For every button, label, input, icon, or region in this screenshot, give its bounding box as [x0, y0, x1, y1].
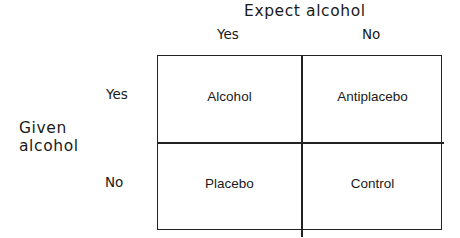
column-label-yes: Yes	[217, 26, 239, 42]
cell-alcohol: Alcohol	[158, 89, 301, 104]
column-label-no: No	[362, 26, 380, 42]
two-by-two-grid: Alcohol Antiplacebo Placebo Control	[157, 55, 442, 230]
row-axis-title: Given alcohol	[19, 119, 79, 155]
row-axis-title-line1: Given	[19, 119, 79, 137]
row-axis-title-line2: alcohol	[19, 137, 79, 155]
row-label-yes: Yes	[106, 86, 128, 102]
grid-horizontal-divider	[158, 142, 444, 144]
grid-vertical-divider	[301, 55, 303, 237]
cell-antiplacebo: Antiplacebo	[301, 89, 444, 104]
column-axis-title: Expect alcohol	[244, 2, 366, 20]
cell-control: Control	[301, 176, 444, 191]
row-label-no: No	[105, 174, 123, 190]
cell-placebo: Placebo	[158, 176, 301, 191]
